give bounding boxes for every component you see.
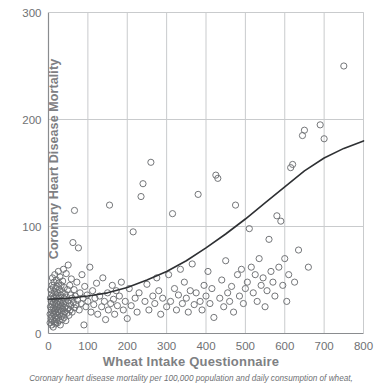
x-tick-label-200: 200 [118,340,137,352]
data-point [79,272,85,278]
data-point [132,295,138,301]
data-point [185,309,191,315]
data-point [93,280,99,286]
data-point [193,290,199,296]
data-point [266,236,272,242]
data-point [278,218,284,224]
data-point [101,298,107,304]
data-point [209,285,215,291]
data-point [136,290,142,296]
data-point [291,279,297,285]
y-axis-tick-labels: 0100200300 [22,7,41,340]
data-point [187,288,193,294]
data-point [250,290,256,296]
data-point [167,298,173,304]
data-point [195,191,201,197]
data-point [152,300,158,306]
data-point [148,159,154,165]
data-point [118,279,124,285]
y-tick-label-0: 0 [35,328,41,340]
data-point [221,304,227,310]
data-point [183,295,189,301]
data-point [109,282,115,288]
x-tick-label-300: 300 [157,340,176,352]
data-point [252,272,258,278]
data-point [264,288,270,294]
x-tick-label-0: 0 [45,340,51,352]
data-point [207,300,213,306]
data-point [199,307,205,313]
data-point [65,262,71,268]
x-tick-label-400: 400 [196,340,215,352]
data-point [219,277,225,283]
data-point [272,293,278,299]
y-tick-label-200: 200 [22,114,41,126]
data-point [140,181,146,187]
data-point [258,282,264,288]
data-point [295,247,301,253]
data-point [128,303,134,309]
data-point [71,287,77,293]
data-point [274,213,280,219]
data-point [181,279,187,285]
data-point [106,202,112,208]
data-point [175,292,181,298]
data-point [158,311,164,317]
data-point [238,266,244,272]
data-point [232,202,238,208]
data-point [268,268,274,274]
y-tick-label-300: 300 [22,7,41,19]
data-point [173,307,179,313]
data-point [100,275,106,281]
data-point [305,264,311,270]
data-point [236,293,242,299]
data-point [120,307,126,313]
data-point [160,295,166,301]
data-point [75,245,81,251]
data-point [276,264,282,270]
data-point [130,229,136,235]
data-point [105,307,111,313]
data-points-layer [47,63,347,330]
data-point [88,309,94,315]
data-point [144,281,150,287]
data-point [286,272,292,278]
data-point [254,298,260,304]
data-point [116,293,122,299]
data-point [191,302,197,308]
data-point [262,304,268,310]
data-point [234,272,240,278]
x-axis-tick-labels: 0100200300400500600700800 [45,340,373,352]
data-point [227,298,233,304]
data-point [146,307,152,313]
data-point [95,311,101,317]
data-point [317,122,323,128]
data-point [197,298,203,304]
data-point [134,309,140,315]
data-point [341,63,347,69]
data-point [102,316,108,322]
grid-layer [49,13,364,334]
data-point [230,309,236,315]
data-point [74,279,80,285]
data-point [256,256,262,262]
scatter-chart-figure: 0100200300400500600700800 0100200300 Cor… [0,0,382,391]
x-tick-label-100: 100 [78,340,97,352]
x-axis-title: Wheat Intake Questionnaire [0,354,382,369]
data-point [177,266,183,272]
data-point [189,261,195,267]
data-point [217,295,223,301]
x-tick-label-700: 700 [315,340,334,352]
figure-caption: Coronary heart disease mortality per 100… [0,374,382,383]
data-point [81,322,87,328]
data-point [171,285,177,291]
data-point [138,193,144,199]
x-tick-label-500: 500 [236,340,255,352]
data-point [270,279,276,285]
data-point [169,211,175,217]
data-point [114,303,120,309]
data-point [301,127,307,133]
data-point [142,298,148,304]
data-point [112,311,118,317]
data-point [248,264,254,270]
